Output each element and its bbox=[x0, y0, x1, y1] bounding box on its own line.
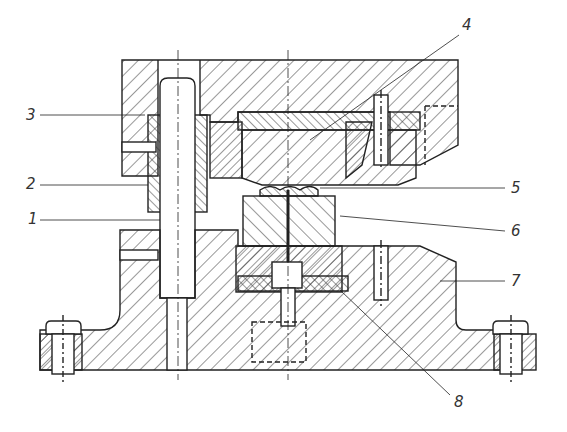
callout-8: 8 bbox=[454, 395, 464, 410]
ejector-pin bbox=[272, 262, 302, 288]
callout-4: 4 bbox=[462, 18, 472, 33]
callout-1: 1 bbox=[28, 212, 38, 227]
right-flange-bolt bbox=[493, 315, 536, 382]
punch-backing-plate bbox=[238, 112, 420, 130]
die-set-cross-section-drawing bbox=[0, 0, 567, 432]
callout-6: 6 bbox=[511, 224, 521, 239]
left-flange-bolt bbox=[40, 315, 82, 382]
callout-3: 3 bbox=[26, 108, 36, 123]
punch bbox=[242, 130, 416, 185]
stripper-block bbox=[210, 122, 242, 178]
callout-5: 5 bbox=[511, 181, 521, 196]
callout-2: 2 bbox=[26, 177, 36, 192]
guide-pillar bbox=[160, 78, 195, 298]
callout-7: 7 bbox=[511, 274, 521, 289]
